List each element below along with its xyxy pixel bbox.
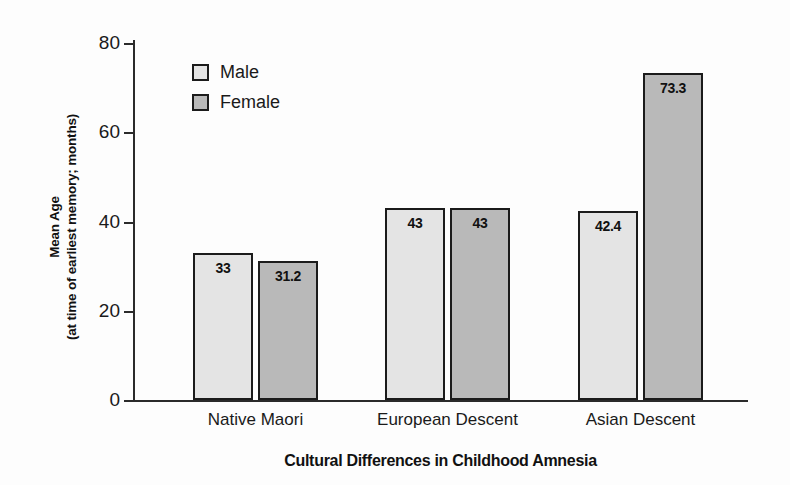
category-label-european-descent: European Descent xyxy=(348,410,548,430)
legend-item-male: Male xyxy=(192,62,280,83)
bar-asian-descent-female: 73.3 xyxy=(643,73,703,400)
bar-native-maori-female: 31.2 xyxy=(258,261,318,400)
bar-value-label: 73.3 xyxy=(645,80,701,96)
female-swatch-icon xyxy=(192,94,209,111)
category-label-asian-descent: Asian Descent xyxy=(541,410,741,430)
bar-value-label: 33 xyxy=(195,260,251,276)
bar-value-label: 43 xyxy=(387,215,443,231)
bar-value-label: 43 xyxy=(452,215,508,231)
male-swatch-icon xyxy=(192,64,209,81)
legend-item-female: Female xyxy=(192,92,280,113)
legend-label-female: Female xyxy=(220,92,280,113)
bar-value-label: 42.4 xyxy=(580,218,636,234)
legend-label-male: Male xyxy=(220,62,259,83)
bar-european-descent-male: 43 xyxy=(385,208,445,400)
x-axis-title: Cultural Differences in Childhood Amnesi… xyxy=(133,452,748,470)
bar-asian-descent-male: 42.4 xyxy=(578,211,638,400)
legend: Male Female xyxy=(192,62,280,122)
bar-chart: Mean Age (at time of earliest memory; mo… xyxy=(0,0,790,485)
category-label-native-maori: Native Maori xyxy=(156,410,356,430)
bar-european-descent-female: 43 xyxy=(450,208,510,400)
bar-native-maori-male: 33 xyxy=(193,253,253,400)
bar-value-label: 31.2 xyxy=(260,268,316,284)
